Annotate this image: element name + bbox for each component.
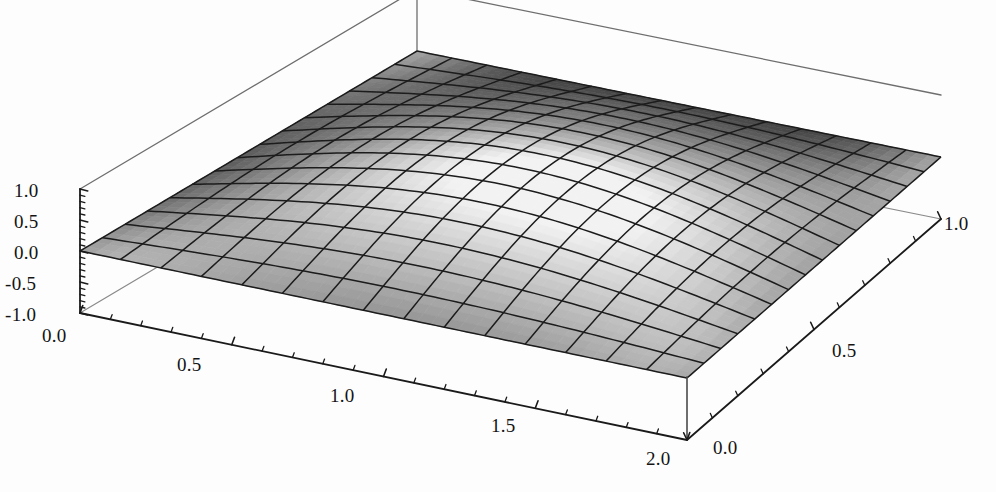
z-tick-label-1: 1.0 [14, 180, 39, 202]
x-tick-label-4: 1.5 [491, 415, 516, 437]
y-tick-label-2: 0.5 [832, 340, 857, 362]
surface-mesh [80, 51, 941, 378]
y-tick-label-3: 1.0 [944, 213, 969, 235]
x-tick-label-1: 0.0 [42, 325, 67, 347]
z-tick-label-4: -0.5 [5, 273, 36, 295]
y-tick-label-1: 0.0 [713, 437, 738, 459]
surface-plot-figure: 1.0 0.5 0.0 -0.5 -1.0 0.0 0.5 1.0 1.5 2.… [0, 0, 996, 492]
x-tick-label-5: 2.0 [646, 448, 671, 470]
z-tick-label-3: 0.0 [14, 242, 39, 264]
z-tick-label-2: 0.5 [14, 211, 39, 233]
x-tick-label-2: 0.5 [177, 354, 202, 376]
z-tick-label-5: -1.0 [5, 304, 36, 326]
x-tick-label-3: 1.0 [330, 385, 355, 407]
